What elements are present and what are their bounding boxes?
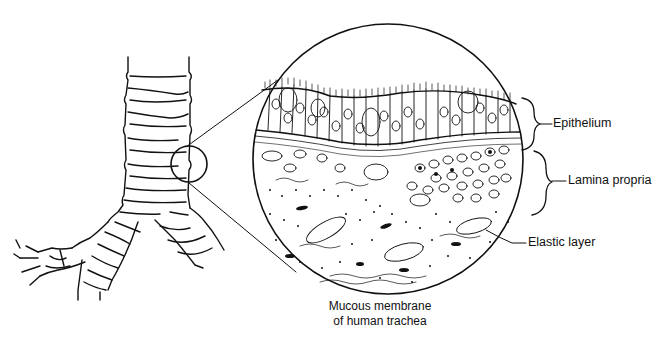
mucosa-cross-section: [253, 24, 523, 294]
figure-caption: Mucous membrane of human trachea: [300, 299, 460, 329]
trachea-diagram: [0, 0, 666, 347]
lamina-propria-label: Lamina propria: [568, 173, 651, 187]
elastic-layer-label: Elastic layer: [528, 235, 595, 249]
lamina-propria-brace: [532, 151, 552, 215]
epithelium-label: Epithelium: [553, 116, 611, 130]
caption-line-1: Mucous membrane: [300, 299, 460, 314]
caption-line-2: of human trachea: [300, 314, 460, 329]
trachea-illustration: [14, 57, 224, 300]
epithelium-brace: [522, 98, 540, 150]
